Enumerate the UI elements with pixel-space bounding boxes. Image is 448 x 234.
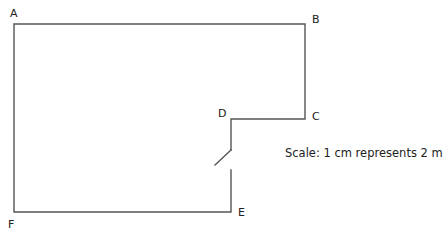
vertex-label-a: A [10, 8, 18, 19]
vertex-label-c: C [312, 111, 320, 122]
vertex-label-e: E [238, 207, 245, 218]
vertex-label-b: B [312, 14, 320, 25]
vertex-label-f: F [8, 219, 14, 230]
vertex-label-d: D [218, 108, 226, 119]
scale-caption: Scale: 1 cm represents 2 m [285, 146, 443, 160]
outer-wall [14, 24, 305, 212]
door-swing [215, 150, 231, 165]
